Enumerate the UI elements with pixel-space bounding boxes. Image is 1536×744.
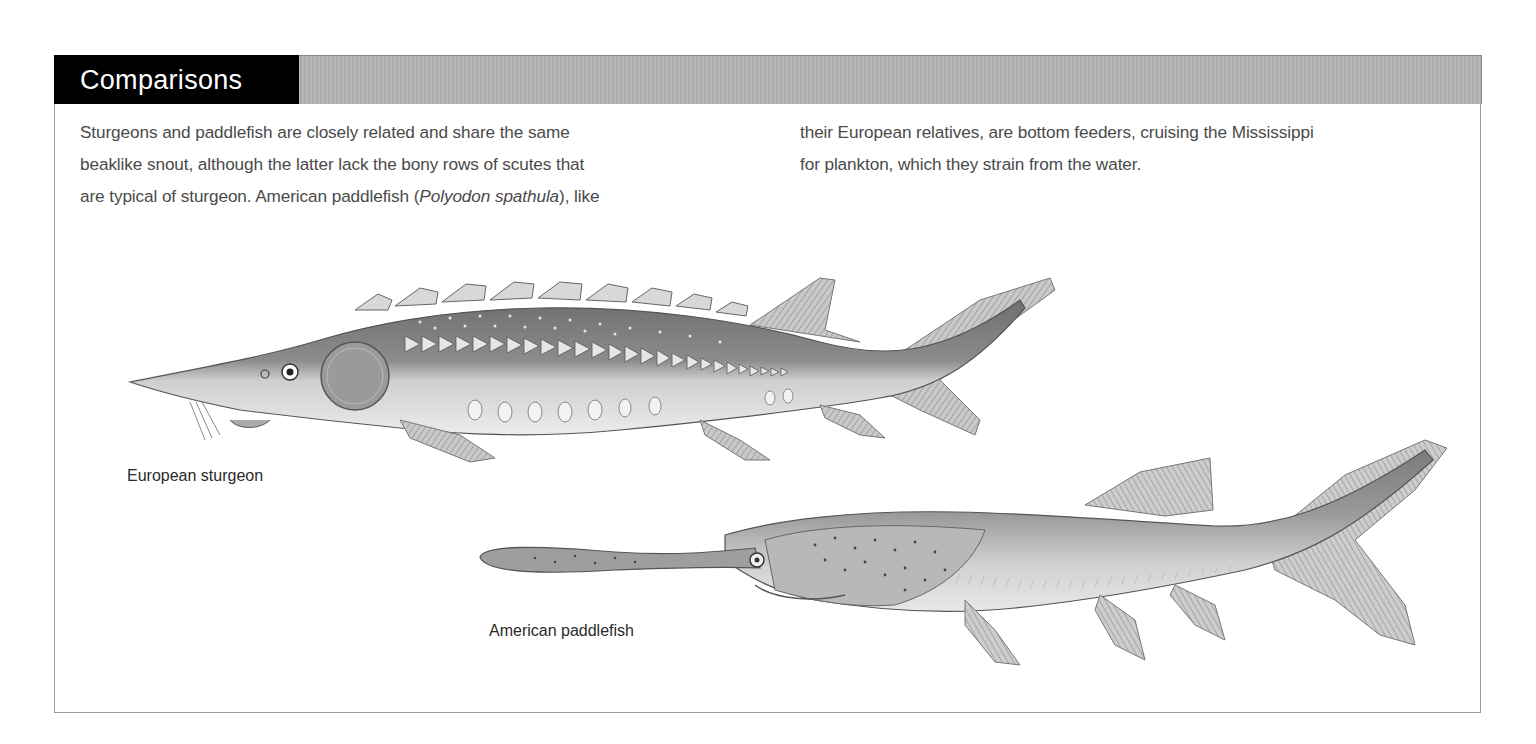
- section-title-box: Comparisons: [54, 55, 299, 104]
- section-title: Comparisons: [54, 63, 242, 96]
- american-paddlefish-illustration: [475, 430, 1465, 680]
- european-sturgeon-label: European sturgeon: [127, 467, 263, 485]
- species-name-italic: Polyodon spathula: [419, 186, 559, 206]
- body-text-line: for plankton, which they strain from the…: [800, 148, 1440, 180]
- body-text-line: their European relatives, are bottom fee…: [800, 116, 1440, 148]
- body-text-segment: are typical of sturgeon. American paddle…: [80, 186, 419, 206]
- body-text-line: Sturgeons and paddlefish are closely rel…: [80, 116, 720, 148]
- body-text-segment: ), like: [559, 186, 599, 206]
- body-text-right-column: their European relatives, are bottom fee…: [800, 116, 1440, 180]
- american-paddlefish-label: American paddlefish: [489, 622, 634, 640]
- body-text-line: beaklike snout, although the latter lack…: [80, 148, 720, 180]
- body-text-line: are typical of sturgeon. American paddle…: [80, 180, 720, 212]
- body-text-left-column: Sturgeons and paddlefish are closely rel…: [80, 116, 720, 212]
